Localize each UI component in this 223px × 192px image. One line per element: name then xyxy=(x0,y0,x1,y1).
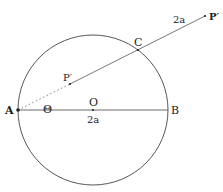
label-A: A xyxy=(4,104,14,117)
geometry-diagram: A B O C P′ P′ Θ 2a 2a xyxy=(0,0,223,192)
label-O: O xyxy=(89,96,98,109)
point-P-outer xyxy=(204,15,206,17)
point-A xyxy=(16,108,20,112)
point-O xyxy=(92,109,94,111)
label-B: B xyxy=(171,104,179,117)
label-P-inner: P′ xyxy=(63,72,73,83)
label-diameter-2a: 2a xyxy=(87,114,99,125)
point-C xyxy=(137,49,139,51)
label-segment-2a: 2a xyxy=(173,14,185,25)
point-P-inner xyxy=(69,83,71,85)
label-C: C xyxy=(134,36,142,49)
label-P-outer: P′ xyxy=(209,11,220,22)
label-theta: Θ xyxy=(43,103,52,116)
